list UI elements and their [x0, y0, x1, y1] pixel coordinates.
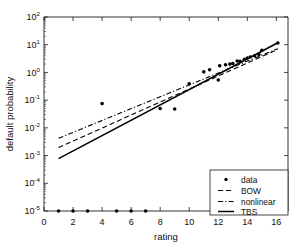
- data-point: [158, 107, 162, 111]
- legend: data BOW nonlinear TBS: [210, 170, 288, 217]
- x-axis-tick-labels: 0246810121416: [41, 217, 281, 227]
- data-point: [129, 209, 133, 213]
- data-point: [238, 60, 242, 64]
- data-point: [253, 54, 257, 58]
- x-axis-tick-label: 10: [184, 217, 194, 227]
- x-axis-tick-label: 6: [129, 217, 134, 227]
- data-point: [231, 62, 235, 66]
- x-axis-tick-label: 8: [158, 217, 163, 227]
- data-point: [100, 102, 104, 106]
- data-point: [276, 41, 280, 45]
- x-axis-tick-label: 14: [242, 217, 252, 227]
- y-axis-tick-label: 10-3: [24, 149, 40, 161]
- data-point: [57, 209, 61, 213]
- y-axis-tick-label: 10-1: [24, 93, 40, 105]
- x-axis-tick-label: 0: [41, 217, 46, 227]
- y-axis-tick-label: 10-2: [24, 121, 40, 133]
- x-axis-tick-label: 2: [71, 217, 76, 227]
- y-axis-tick-label: 10-5: [24, 204, 40, 216]
- y-axis-title: default probability: [4, 77, 15, 152]
- x-axis-tick-label: 12: [213, 217, 223, 227]
- legend-marker-data: [224, 178, 227, 181]
- legend-label-bow: BOW: [241, 186, 261, 196]
- legend-label-nonlinear: nonlinear: [241, 197, 276, 207]
- y-axis-tick-label: 101: [27, 38, 41, 50]
- data-point: [224, 63, 228, 67]
- legend-label-tbs: TBS: [241, 207, 258, 217]
- data-point: [144, 209, 148, 213]
- x-axis-title: rating: [154, 231, 178, 242]
- y-axis-tick-label: 100: [27, 66, 41, 78]
- y-axis-tick-label: 10-4: [24, 176, 40, 188]
- y-axis-tick-label: 102: [27, 10, 41, 22]
- data-point: [218, 64, 222, 68]
- data-point: [71, 209, 75, 213]
- data-point: [202, 70, 206, 74]
- x-axis-tick-label: 16: [271, 217, 281, 227]
- data-point: [260, 48, 264, 52]
- data-point: [257, 53, 261, 57]
- data-point: [208, 68, 212, 72]
- data-point: [248, 55, 252, 59]
- y-axis-tick-labels: 10210110010-110-210-310-410-5: [24, 10, 40, 216]
- data-point: [115, 209, 119, 213]
- data-point: [173, 107, 177, 111]
- data-point: [216, 78, 220, 82]
- legend-label-data: data: [241, 175, 258, 185]
- x-axis-tick-label: 4: [100, 217, 105, 227]
- data-point: [187, 82, 191, 86]
- default-probability-vs-rating-chart: 10210110010-110-210-310-410-5 0246810121…: [0, 0, 302, 251]
- data-point: [86, 209, 90, 213]
- figure-container: 10210110010-110-210-310-410-5 0246810121…: [0, 0, 302, 251]
